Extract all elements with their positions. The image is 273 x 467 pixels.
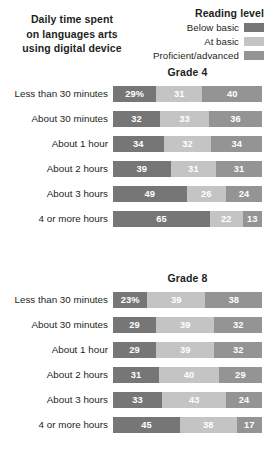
stacked-bar: 652213 — [113, 211, 262, 227]
bar-segment-proficient-advanced: 32 — [214, 342, 262, 358]
grade-8-heading: Grade 8 — [113, 272, 262, 285]
bar-segment-below-basic: 31 — [113, 367, 159, 383]
bar-segment-proficient-advanced: 13 — [243, 211, 262, 227]
bar-segment-at-basic: 39 — [156, 342, 214, 358]
bar-segment-proficient-advanced: 17 — [237, 417, 262, 433]
bar-row-label: About 3 hours — [0, 183, 108, 205]
bar-row-label: About 2 hours — [0, 364, 108, 386]
bar-row: About 2 hours393131 — [0, 158, 273, 183]
bar-segment-below-basic: 23% — [113, 292, 147, 308]
bar-row-label: About 1 hour — [0, 133, 108, 155]
bar-segment-proficient-advanced: 29 — [219, 367, 262, 383]
bar-segment-proficient-advanced: 24 — [226, 186, 262, 202]
legend-item-label: Proficient/advanced — [153, 49, 239, 63]
bar-segment-below-basic: 29% — [113, 86, 156, 102]
bar-row-label: About 3 hours — [0, 389, 108, 411]
bar-segment-at-basic: 38 — [180, 417, 237, 433]
stacked-bar: 334324 — [113, 392, 262, 408]
chart-header: Daily time spent on languages arts using… — [0, 0, 273, 66]
legend: Reading level Below basic At basic Profi… — [114, 6, 264, 63]
bar-row-label: 4 or more hours — [0, 414, 108, 436]
bar-row-label: About 30 minutes — [0, 314, 108, 336]
bar-row: About 3 hours334324 — [0, 389, 273, 414]
grade-4-heading: Grade 4 — [113, 66, 262, 79]
bar-segment-below-basic: 29 — [113, 317, 156, 333]
bar-segment-at-basic: 39 — [156, 317, 214, 333]
bar-segment-at-basic: 32 — [164, 136, 212, 152]
bar-segment-proficient-advanced: 36 — [209, 111, 262, 127]
bar-row: About 2 hours314029 — [0, 364, 273, 389]
legend-swatch-below-basic — [244, 23, 264, 32]
bar-segment-at-basic: 26 — [187, 186, 226, 202]
stacked-bar: 393131 — [113, 161, 262, 177]
bar-segment-below-basic: 49 — [113, 186, 187, 202]
bar-row-label: About 1 hour — [0, 339, 108, 361]
bar-segment-at-basic: 31 — [171, 161, 217, 177]
bar-segment-proficient-advanced: 24 — [226, 392, 262, 408]
bar-row: 4 or more hours652213 — [0, 208, 273, 233]
stacked-bar: 293932 — [113, 317, 262, 333]
legend-item-at-basic: At basic — [114, 35, 264, 49]
stacked-bar: 323336 — [113, 111, 262, 127]
bar-segment-at-basic: 22 — [210, 211, 243, 227]
bar-row: About 30 minutes293932 — [0, 314, 273, 339]
stacked-bar: 343234 — [113, 136, 262, 152]
bar-row-label: 4 or more hours — [0, 208, 108, 230]
bar-segment-below-basic: 39 — [113, 161, 171, 177]
legend-swatch-at-basic — [244, 37, 264, 46]
legend-item-below-basic: Below basic — [114, 21, 264, 35]
bar-row: About 3 hours492624 — [0, 183, 273, 208]
bar-row-label: About 2 hours — [0, 158, 108, 180]
legend-title: Reading level — [114, 6, 264, 20]
bar-row: About 30 minutes323336 — [0, 108, 273, 133]
stacked-bar: 29%3140 — [113, 86, 262, 102]
bar-segment-proficient-advanced: 31 — [216, 161, 262, 177]
bar-row-label: Less than 30 minutes — [0, 289, 108, 311]
bar-row-label: About 30 minutes — [0, 108, 108, 130]
legend-swatch-proficient-advanced — [244, 51, 264, 60]
bar-segment-proficient-advanced: 40 — [202, 86, 262, 102]
grade-8-rows: Less than 30 minutes23%3938About 30 minu… — [0, 289, 273, 439]
stacked-bar: 453817 — [113, 417, 262, 433]
bar-segment-at-basic: 39 — [147, 292, 205, 308]
bar-segment-at-basic: 33 — [160, 111, 209, 127]
bar-row-label: Less than 30 minutes — [0, 83, 108, 105]
stacked-bar: 314029 — [113, 367, 262, 383]
bar-segment-at-basic: 43 — [162, 392, 226, 408]
bar-row: Less than 30 minutes23%3938 — [0, 289, 273, 314]
stacked-bar: 492624 — [113, 186, 262, 202]
bar-segment-proficient-advanced: 34 — [211, 136, 262, 152]
bar-segment-below-basic: 32 — [113, 111, 160, 127]
bar-segment-proficient-advanced: 38 — [205, 292, 262, 308]
bar-row: 4 or more hours453817 — [0, 414, 273, 439]
bar-segment-proficient-advanced: 32 — [214, 317, 262, 333]
bar-segment-below-basic: 29 — [113, 342, 156, 358]
bar-segment-at-basic: 31 — [156, 86, 202, 102]
grade-4-rows: Less than 30 minutes29%3140About 30 minu… — [0, 83, 273, 233]
legend-item-proficient-advanced: Proficient/advanced — [114, 49, 264, 63]
bar-segment-below-basic: 65 — [113, 211, 210, 227]
stacked-bar: 23%3938 — [113, 292, 262, 308]
bar-row: About 1 hour293932 — [0, 339, 273, 364]
bar-segment-below-basic: 33 — [113, 392, 162, 408]
stacked-bar: 293932 — [113, 342, 262, 358]
bar-segment-below-basic: 45 — [113, 417, 180, 433]
bar-segment-at-basic: 40 — [159, 367, 219, 383]
bar-row: About 1 hour343234 — [0, 133, 273, 158]
bar-row: Less than 30 minutes29%3140 — [0, 83, 273, 108]
legend-item-label: At basic — [204, 35, 239, 49]
legend-item-label: Below basic — [187, 21, 239, 35]
bar-segment-below-basic: 34 — [113, 136, 164, 152]
